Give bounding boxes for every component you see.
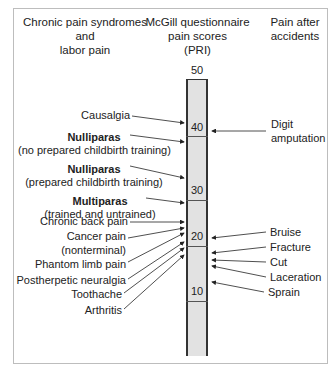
- arrows-layer: [0, 0, 336, 372]
- arrow-causalgia: [132, 116, 184, 123]
